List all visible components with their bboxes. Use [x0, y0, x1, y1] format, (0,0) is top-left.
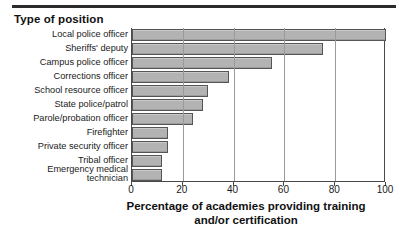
bar-row[interactable]	[132, 43, 384, 55]
bar[interactable]	[132, 155, 162, 167]
bar-row[interactable]	[132, 113, 384, 125]
chart-figure: Type of position Local police officerShe…	[0, 0, 406, 242]
bar[interactable]	[132, 71, 229, 83]
gridline-20	[183, 28, 184, 181]
bar[interactable]	[132, 57, 272, 69]
category-label: Firefighter	[0, 128, 128, 138]
category-label: School resource officer	[0, 86, 128, 96]
bar[interactable]	[132, 43, 323, 55]
bar[interactable]	[132, 85, 208, 97]
bar[interactable]	[132, 141, 168, 153]
category-label: Corrections officer	[0, 72, 128, 82]
x-axis-title: Percentage of academies providing traini…	[96, 200, 396, 227]
x-tick-label: 40	[227, 184, 238, 195]
bar-row[interactable]	[132, 71, 384, 83]
bar-row[interactable]	[132, 155, 384, 167]
x-tick-label: 20	[176, 184, 187, 195]
x-axis-title-line1: Percentage of academies providing traini…	[126, 200, 365, 212]
page-title: Type of position	[14, 13, 104, 25]
category-label: Emergency medical technician	[0, 165, 128, 184]
bar-row[interactable]	[132, 57, 384, 69]
x-tick-label: 100	[377, 184, 394, 195]
category-label: Campus police officer	[0, 58, 128, 68]
bar-row[interactable]	[132, 29, 384, 41]
gridline-40	[234, 28, 235, 181]
gridline-80	[335, 28, 336, 181]
bar-row[interactable]	[132, 85, 384, 97]
category-label: Sheriffs' deputy	[0, 44, 128, 54]
category-label: State police/patrol	[0, 100, 128, 110]
bar[interactable]	[132, 99, 203, 111]
x-tick-label: 60	[278, 184, 289, 195]
x-axis-title-line2: and/or certification	[194, 214, 298, 226]
category-axis-labels: Local police officerSheriffs' deputyCamp…	[0, 28, 128, 182]
gridline-60	[284, 28, 285, 181]
bar[interactable]	[132, 169, 162, 181]
plot-area	[131, 28, 385, 182]
category-label: Private security officer	[0, 142, 128, 152]
bar-row[interactable]	[132, 127, 384, 139]
bar[interactable]	[132, 127, 168, 139]
category-label: Local police officer	[0, 30, 128, 40]
bar-row[interactable]	[132, 141, 384, 153]
bar[interactable]	[132, 113, 193, 125]
category-label: Parole/probation officer	[0, 114, 128, 124]
x-tick-label: 0	[128, 184, 134, 195]
x-tick-label: 80	[329, 184, 340, 195]
header-rule	[12, 5, 396, 8]
bar-series	[132, 28, 384, 181]
bar-row[interactable]	[132, 169, 384, 181]
bar-row[interactable]	[132, 99, 384, 111]
bar[interactable]	[132, 29, 386, 41]
